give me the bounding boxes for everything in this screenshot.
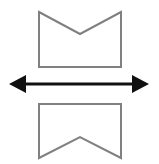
figure-canvas: Shape transformation: notched-top pentag…	[0, 0, 159, 164]
arrow-head-left-icon	[9, 75, 26, 93]
shape-diagram-svg: Shape transformation: notched-top pentag…	[0, 0, 159, 164]
top-shape-notched-pentagon	[39, 12, 121, 67]
transformation-arrow	[9, 75, 149, 93]
arrow-head-right-icon	[132, 75, 149, 93]
bottom-shape-ribbon-banner	[39, 104, 121, 158]
